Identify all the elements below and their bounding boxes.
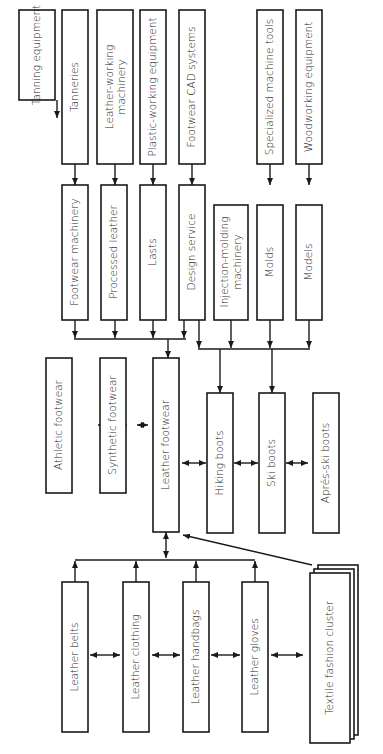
- svg-text:Tanneries: Tanneries: [68, 62, 80, 112]
- node-leather-clothing: Leather clothing: [123, 582, 149, 732]
- node-leather-working-machinery: Leather-working machinery: [97, 10, 133, 164]
- node-footwear-cad-systems: Footwear CAD systems: [179, 10, 205, 164]
- svg-text:machinery: machinery: [115, 59, 127, 115]
- node-processed-leather: Processed leather: [101, 185, 127, 320]
- node-synthetic-footwear: Synthetic footwear: [100, 358, 126, 493]
- svg-text:Specialized machine tools: Specialized machine tools: [263, 19, 275, 156]
- node-leather-handbags: Leather handbags: [183, 582, 209, 732]
- svg-text:Plastic-working equipment: Plastic-working equipment: [146, 17, 158, 156]
- node-leather-gloves: Leather gloves: [242, 582, 268, 732]
- node-specialized-machine-tools: Specialized machine tools: [257, 10, 283, 164]
- node-tanneries: Tanneries: [62, 10, 88, 164]
- svg-text:Ski boots: Ski boots: [265, 439, 277, 487]
- svg-text:Design service: Design service: [185, 214, 197, 291]
- node-lasts: Lasts: [140, 185, 166, 320]
- svg-text:Woodworking equipment: Woodworking equipment: [302, 22, 314, 153]
- node-molds: Molds: [257, 205, 283, 320]
- svg-text:Leather gloves: Leather gloves: [248, 618, 260, 695]
- node-plastic-working-equipment: Plastic-working equipment: [140, 10, 166, 164]
- cluster-diagram: Tanning equipment Tanneries Leather-work…: [0, 0, 383, 754]
- svg-text:Synthetic footwear: Synthetic footwear: [106, 375, 118, 475]
- node-design-service: Design service: [179, 185, 205, 320]
- svg-text:Processed leather: Processed leather: [107, 204, 119, 298]
- node-leather-belts: Leather belts: [62, 582, 88, 732]
- node-apres-ski-boots: Aprés-ski boots: [313, 393, 339, 533]
- svg-text:Aprés-ski boots: Aprés-ski boots: [319, 423, 331, 504]
- svg-text:Lasts: Lasts: [146, 238, 158, 265]
- svg-text:Tanning equipment: Tanning equipment: [30, 5, 42, 105]
- node-hiking-boots: Hiking boots: [207, 393, 233, 533]
- node-models: Models: [296, 205, 322, 320]
- svg-text:Hiking boots: Hiking boots: [213, 430, 225, 495]
- svg-text:Footwear machinery: Footwear machinery: [68, 198, 80, 305]
- node-textile-fashion-cluster: Textile fashion cluster: [310, 565, 358, 743]
- svg-text:Leather footwear: Leather footwear: [159, 399, 171, 490]
- node-tanning-equipment: Tanning equipment: [19, 5, 55, 105]
- svg-text:Molds: Molds: [263, 247, 275, 278]
- node-woodworking-equipment: Woodworking equipment: [296, 10, 322, 164]
- svg-text:Textile fashion cluster: Textile fashion cluster: [323, 600, 335, 715]
- svg-text:Leather handbags: Leather handbags: [189, 610, 201, 705]
- svg-text:machinery: machinery: [231, 234, 243, 290]
- svg-text:Athletic footwear: Athletic footwear: [52, 379, 64, 469]
- svg-text:Leather clothing: Leather clothing: [129, 614, 141, 699]
- svg-text:Leather-working: Leather-working: [103, 45, 115, 130]
- node-athletic-footwear: Athletic footwear: [46, 358, 72, 493]
- node-leather-footwear: Leather footwear: [153, 358, 179, 532]
- svg-text:Injection-molding: Injection-molding: [218, 217, 230, 308]
- svg-text:Leather belts: Leather belts: [68, 622, 80, 691]
- node-ski-boots: Ski boots: [259, 393, 285, 533]
- svg-text:Models: Models: [302, 244, 314, 281]
- svg-text:Footwear CAD systems: Footwear CAD systems: [185, 26, 197, 147]
- node-injection-molding-machinery: Injection-molding machinery: [214, 205, 248, 320]
- node-footwear-machinery: Footwear machinery: [62, 185, 88, 320]
